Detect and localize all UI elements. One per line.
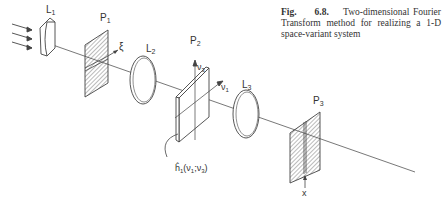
plane-p1-icon [85, 30, 118, 97]
label-nu1: ν1 [221, 82, 230, 93]
label-nu3: ν3 [197, 62, 206, 73]
label-l3: L3 [242, 79, 252, 91]
label-p1: P1 [100, 12, 111, 24]
figure-caption: Fig. 6.8. Two-dimensional Fourier Transf… [281, 7, 441, 40]
label-p2: P2 [190, 35, 201, 47]
lens-l3-icon [233, 90, 259, 138]
label-mask-function: ĥ1(ν1;ν3) [175, 162, 208, 174]
label-xi: ξ [119, 41, 124, 53]
caption-text: Two-dimensional Fourier Transform method… [281, 7, 441, 39]
label-p3: P3 [313, 95, 324, 107]
label-x: x [302, 188, 307, 198]
lens-l2-icon [130, 56, 156, 104]
plane-p2-mask-icon [175, 60, 223, 142]
caption-fig-label: Fig. [281, 7, 297, 17]
plane-p3-icon [290, 112, 320, 188]
label-l2: L2 [146, 43, 156, 55]
lens-l1-icon [40, 18, 55, 56]
label-l1: L1 [46, 4, 56, 16]
caption-fig-number: 6.8. [315, 7, 329, 17]
incoming-light-arrows-icon [12, 24, 32, 50]
